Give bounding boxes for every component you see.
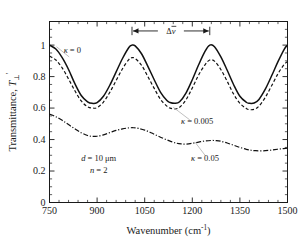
major-ticks xyxy=(50,22,288,203)
kappa-005-label: κ = 0.05 xyxy=(191,153,219,163)
x-tick-label: 1050 xyxy=(135,205,155,216)
kappa-0-label: κ = 0 xyxy=(64,45,81,55)
x-axis-title: Wavenumber (cm-1) xyxy=(126,224,211,237)
transmittance-spectrum-figure: 7509001050120013501500 00.20.40.60.81 Δν… xyxy=(0,0,305,249)
curve-dashdot xyxy=(50,114,288,151)
arrowhead-right-icon xyxy=(203,28,209,33)
y-tick-labels: 00.20.40.60.81 xyxy=(33,40,46,208)
y-axis-title: Transmittance, T⊥' xyxy=(5,72,21,151)
y-tick-label: 1 xyxy=(41,40,46,51)
svg-text:Transmittance, T⊥': Transmittance, T⊥' xyxy=(5,72,21,151)
x-tick-label: 1350 xyxy=(230,205,250,216)
x-tick-label: 900 xyxy=(90,205,105,216)
y-tick-label: 0 xyxy=(41,197,46,208)
y-tick-label: 0.4 xyxy=(33,134,46,145)
arrowhead-left-icon xyxy=(133,28,139,33)
chart-canvas: 7509001050120013501500 00.20.40.60.81 Δν… xyxy=(0,0,305,249)
minor-ticks xyxy=(50,22,288,203)
y-tick-label: 0.8 xyxy=(33,71,46,82)
kappa-0005-label: κ = 0.005 xyxy=(181,116,213,126)
y-tick-label: 0.2 xyxy=(33,165,46,176)
svg-text:Δν: Δν xyxy=(166,26,175,36)
axes-frame xyxy=(50,22,288,203)
annotation-leader-lines xyxy=(56,47,205,156)
refractive-index-label: n = 2 xyxy=(90,165,108,175)
delta-nu-bar: Δν xyxy=(166,26,176,36)
y-tick-label: 0.6 xyxy=(33,102,46,113)
x-tick-labels: 7509001050120013501500 xyxy=(42,205,298,216)
curve-solid xyxy=(50,45,288,104)
x-tick-label: 1200 xyxy=(182,205,202,216)
x-tick-label: 1500 xyxy=(278,205,298,216)
thickness-label: d = 10 μm xyxy=(81,153,116,163)
data-curves xyxy=(50,45,288,151)
